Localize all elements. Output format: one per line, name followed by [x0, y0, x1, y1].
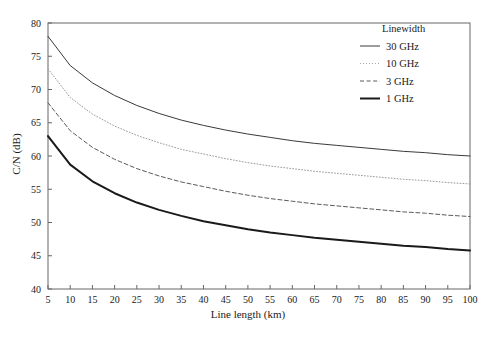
y-axis-label: C/N (dB) — [10, 104, 22, 204]
y-tick-label: 80 — [31, 18, 41, 29]
y-tick-label: 70 — [31, 84, 41, 95]
x-tick-label: 85 — [398, 294, 408, 305]
x-tick-label: 50 — [243, 294, 253, 305]
y-tick-label: 55 — [31, 184, 41, 195]
y-tick-label: 50 — [31, 217, 41, 228]
chart-canvas: 5101520253035404550556065707580859095100… — [0, 0, 496, 340]
x-tick-label: 45 — [221, 294, 231, 305]
x-tick-label: 90 — [421, 294, 431, 305]
x-tick-label: 75 — [354, 294, 364, 305]
x-tick-label: 10 — [65, 294, 75, 305]
legend-label-3-ghz: 3 GHz — [386, 76, 414, 87]
y-tick-label: 40 — [31, 284, 41, 295]
x-tick-label: 70 — [332, 294, 342, 305]
x-tick-label: 35 — [176, 294, 186, 305]
x-tick-label: 100 — [463, 294, 478, 305]
x-tick-label: 95 — [443, 294, 453, 305]
x-tick-label: 25 — [132, 294, 142, 305]
x-tick-label: 30 — [154, 294, 164, 305]
x-tick-label: 20 — [110, 294, 120, 305]
series-line-3-ghz — [48, 103, 470, 217]
x-tick-label: 65 — [310, 294, 320, 305]
legend-label-10-ghz: 10 GHz — [386, 58, 419, 69]
series-line-1-ghz — [48, 136, 470, 250]
x-tick-label: 60 — [287, 294, 297, 305]
y-tick-label: 45 — [31, 250, 41, 261]
y-tick-label: 65 — [31, 117, 41, 128]
legend-label-1-ghz: 1 GHz — [386, 93, 414, 104]
x-tick-label: 55 — [265, 294, 275, 305]
y-tick-label: 75 — [31, 51, 41, 62]
x-tick-label: 15 — [87, 294, 97, 305]
y-tick-label: 60 — [31, 151, 41, 162]
x-axis-label: Line length (km) — [0, 308, 496, 320]
legend-title: Linewidth — [382, 23, 426, 34]
chart-figure: 5101520253035404550556065707580859095100… — [0, 0, 496, 340]
x-tick-label: 40 — [198, 294, 208, 305]
x-tick-label: 5 — [46, 294, 51, 305]
x-tick-label: 80 — [376, 294, 386, 305]
legend-label-30-ghz: 30 GHz — [386, 41, 419, 52]
